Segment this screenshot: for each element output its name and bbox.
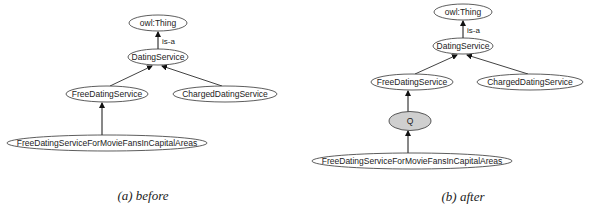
node-label: ChargedDatingService [487,77,573,87]
node-charged-dating-service[interactable]: ChargedDatingService [477,74,583,90]
node-owl-thing[interactable]: owl:Thing [129,15,187,31]
caption-before: (a) before [117,188,168,203]
edge-free-to-dating [415,55,457,74]
node-dating-service[interactable]: DatingService [433,38,493,54]
node-movie-fans-service[interactable]: FreeDatingServiceForMovieFansInCapitalAr… [7,135,207,151]
node-label: FreeDatingService [377,77,448,87]
node-dating-service[interactable]: DatingService [128,49,188,65]
node-label: owl:Thing [140,18,177,28]
edge-charged-to-dating [162,66,222,86]
caption-after: (b) after [442,189,486,204]
node-movie-fans-service[interactable]: FreeDatingServiceForMovieFansInCapitalAr… [312,153,512,169]
node-label: owl:Thing [445,7,482,17]
edge-label-is-a: is-a [162,37,175,46]
node-free-dating-service[interactable]: FreeDatingService [66,86,148,102]
node-owl-thing[interactable]: owl:Thing [434,4,492,20]
edge-free-to-dating [110,66,152,86]
node-label: Q [407,116,414,126]
node-label: ChargedDatingService [182,89,268,99]
edge-label-is-a: is-a [467,26,480,35]
ontology-diagram: is-a owl:Thing DatingService FreeDatingS… [0,0,591,209]
panel-after: is-a owl:Thing DatingService FreeDatingS… [312,4,583,204]
edge-charged-to-dating [467,55,528,74]
node-label: FreeDatingServiceForMovieFansInCapitalAr… [17,138,197,148]
node-label: DatingService [437,41,490,51]
node-charged-dating-service[interactable]: ChargedDatingService [173,86,277,102]
node-q-highlighted[interactable]: Q [389,112,431,131]
node-label: DatingService [132,52,185,62]
node-label: FreeDatingService [72,89,143,99]
panel-before: is-a owl:Thing DatingService FreeDatingS… [7,15,277,203]
node-free-dating-service[interactable]: FreeDatingService [371,74,453,90]
node-label: FreeDatingServiceForMovieFansInCapitalAr… [322,156,502,166]
